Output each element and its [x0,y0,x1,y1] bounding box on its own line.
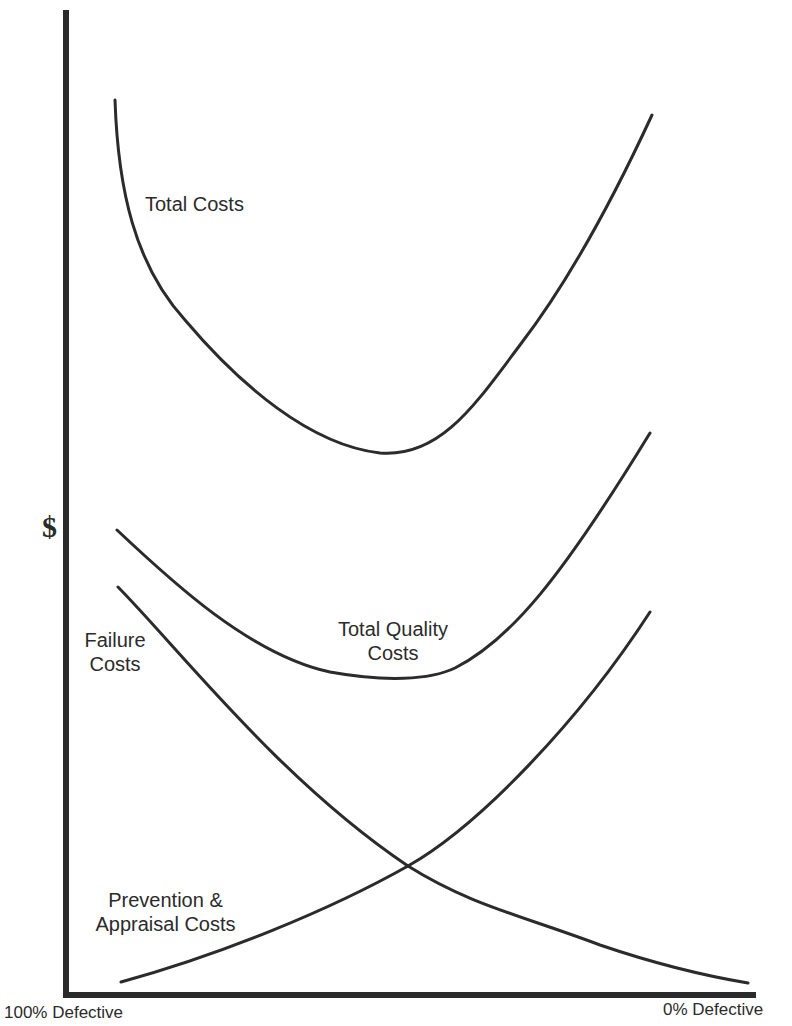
prevention-appraisal-costs-label-line1: Prevention & [78,888,253,912]
total-quality-costs-label-line2: Costs [318,641,468,665]
failure-costs-label-line2: Costs [75,652,155,676]
prevention-appraisal-costs-label-line2: Appraisal Costs [78,912,253,936]
total-costs-label: Total Costs [145,192,244,216]
prevention-appraisal-costs-label: Prevention & Appraisal Costs [78,888,253,936]
cost-of-quality-chart [0,0,792,1026]
failure-costs-label: Failure Costs [75,628,155,676]
failure-costs-label-line1: Failure [75,628,155,652]
total-costs-curve [115,100,652,453]
total-quality-costs-label-line1: Total Quality [318,617,468,641]
x-axis-left-label: 100% Defective [4,1003,123,1023]
y-axis-label: $ [42,510,57,544]
total-quality-costs-label: Total Quality Costs [318,617,468,665]
x-axis-right-label: 0% Defective [663,1000,763,1020]
